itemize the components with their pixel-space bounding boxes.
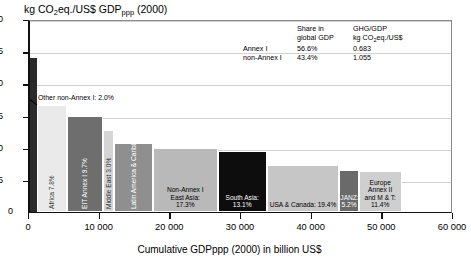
chart-title-part3: (2000) [134,3,167,15]
legend-header-share: Share in global GDP [297,24,353,44]
callout-other-non-annex-i: Other non-Annex I: 2.0% [38,94,114,101]
legend-row-name: non-Annex I [243,53,297,62]
legend-row-share: 43.4% [297,53,353,62]
y-axis-zero-label: 0 [8,206,13,216]
chart-title: kg CO2eq./US$ GDPppp (2000) [24,3,167,15]
x-axis-title: Cumulative GDPppp (2000) in billion US$ [0,244,459,255]
y-axis-tick-label: 3.0 [0,14,3,24]
x-axis-tick-mark [381,213,382,219]
legend-header-intensity: GHG/GDP kg CO2eq./US$ [353,24,423,44]
bar-label: Africa 7.8% [48,175,55,209]
x-axis-tick-mark [169,213,170,219]
legend-row-name: Annex I [243,44,297,53]
bar-middle-east[interactable]: Middle East 3.0% [103,130,114,212]
bar-label: Non-Annex I East Asia: 17.3% [154,186,217,209]
legend-row: non-Annex I 43.4% 1.055 [243,53,423,62]
x-axis-tick-mark [452,213,453,219]
bar-other-non-annex-i[interactable] [30,58,37,212]
x-axis-tick-mark [240,213,241,219]
y-axis-tick-label: 2.0 [0,78,3,88]
legend-header-blank [243,24,297,44]
x-axis-tick-mark [311,213,312,219]
chart-title-part2: eq./US$ GDP [58,3,122,15]
legend-unit-b: eq./US$ [377,33,403,42]
x-axis-tick-mark [28,213,29,219]
bar-usa-canada[interactable]: USA & Canada: 19.4% [267,165,340,212]
chart-title-part1: kg CO [24,3,54,15]
legend-table: Share in global GDP GHG/GDP kg CO2eq./US… [243,24,423,63]
bar-latin-america-caribbean[interactable]: Latin America & Caribbean: 10.3% [114,143,153,212]
bar-eit-annex-i[interactable]: EIT Annex I 9.7% [67,116,103,213]
bar-janz[interactable]: JANZ: 5.2% [339,170,358,212]
legend: Share in global GDP GHG/GDP kg CO2eq./US… [243,24,423,63]
legend-row-intensity: 1.055 [353,53,423,62]
bar-non-annex-i-east-asia[interactable]: Non-Annex I East Asia: 17.3% [153,148,218,212]
x-axis-tick-label: 10 000 [69,222,129,232]
bar-africa[interactable]: Africa 7.8% [37,105,66,212]
legend-header-row: Share in global GDP GHG/GDP kg CO2eq./US… [243,24,423,44]
legend-header-intensity-l1: GHG/GDP [353,24,423,33]
legend-row-intensity: 0.683 [353,44,423,53]
bar-label: South Asia: 13.1% [219,194,266,209]
legend-header-share-l2: global GDP [297,33,353,42]
bar-europe-annex-ii-and-m-t[interactable]: Europe Annex II and M & T: 11.4% [359,171,402,212]
bar-label: Latin America & Caribbean: 10.3% [130,143,137,209]
bar-label: Middle East 3.0% [105,158,112,209]
y-axis-tick-label: 2.5 [0,46,3,56]
y-axis-tick-label: 1.5 [0,111,3,121]
legend-unit-a: kg CO [353,33,373,42]
bar-label: USA & Canada: 19.4% [268,201,339,209]
bar-south-asia[interactable]: South Asia: 13.1% [218,151,267,212]
y-axis-tick-label: 1.0 [0,143,3,153]
chart-title-sub-2: 2 [54,8,58,17]
bar-label: JANZ: 5.2% [340,194,357,209]
legend-row: Annex I 56.6% 0.683 [243,44,423,53]
legend-header-share-l1: Share in [297,24,353,33]
y-axis-tick-label: 0.5 [0,175,3,185]
x-axis-tick-label: 60 000 [422,222,471,232]
bar-label: EIT Annex I 9.7% [81,158,88,209]
chart-title-sub-ppp: ppp [122,8,135,17]
x-axis-tick-label: 40 000 [281,222,341,232]
x-axis-tick-label: 50 000 [351,222,411,232]
legend-unit-sub: 2 [373,37,376,43]
x-axis-tick-label: 30 000 [210,222,270,232]
legend-header-intensity-l2: kg CO2eq./US$ [353,33,423,43]
bar-label: Europe Annex II and M & T: 11.4% [360,179,401,209]
legend-row-share: 56.6% [297,44,353,53]
x-axis-tick-mark [99,213,100,219]
x-axis-tick-label: 20 000 [139,222,199,232]
x-axis-tick-label: 0 [0,222,58,232]
